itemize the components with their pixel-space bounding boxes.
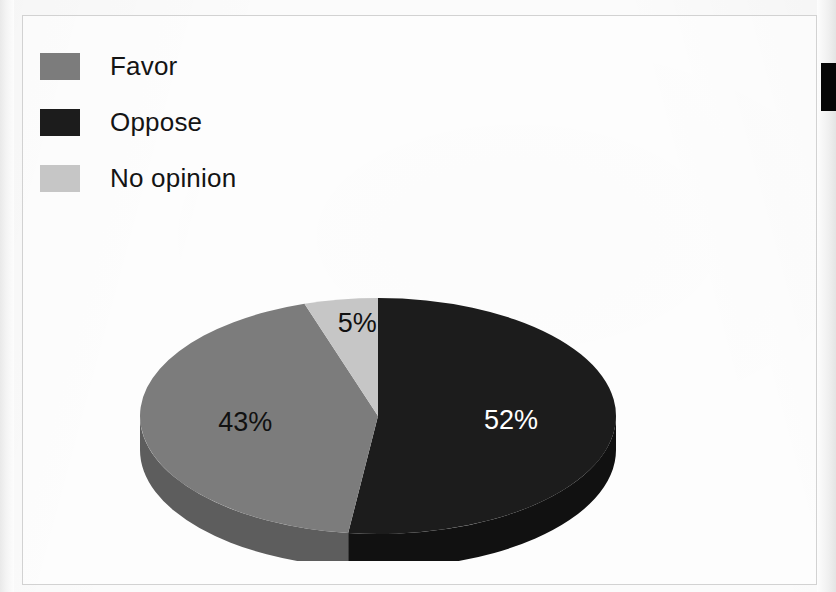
pie-slice-label-no-opinion: 5%: [338, 308, 377, 338]
black-edge-mark-icon: [821, 63, 836, 111]
legend-swatch-favor: [40, 53, 80, 80]
legend-item-no-opinion[interactable]: No opinion: [40, 150, 370, 206]
pie-chart-svg: 52%43%5%: [140, 296, 650, 561]
page-gutter-left: [0, 0, 14, 592]
legend-item-oppose[interactable]: Oppose: [40, 94, 370, 150]
scanned-page: Favor Oppose No opinion 52%43%5%: [0, 0, 836, 592]
pie-chart: 52%43%5%: [140, 296, 650, 561]
legend-swatch-no-opinion: [40, 165, 80, 192]
legend-swatch-oppose: [40, 109, 80, 136]
legend-label-oppose: Oppose: [110, 107, 202, 138]
pie-slice-label-oppose: 52%: [484, 405, 538, 435]
legend-item-favor[interactable]: Favor: [40, 38, 370, 94]
pie-slice-label-favor: 43%: [218, 407, 272, 437]
legend-label-no-opinion: No opinion: [110, 163, 236, 194]
chart-legend: Favor Oppose No opinion: [40, 38, 370, 206]
legend-label-favor: Favor: [110, 51, 177, 82]
pie-top-faces: [140, 298, 616, 534]
